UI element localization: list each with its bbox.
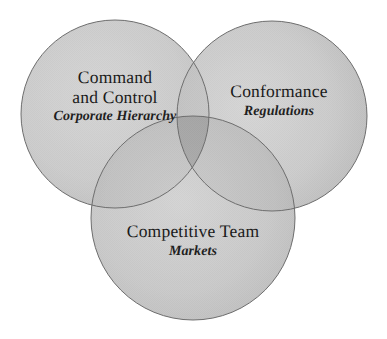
venn-diagram: Command and Control Corporate Hierarchy … <box>0 0 387 339</box>
venn-circles-svg <box>0 0 387 339</box>
